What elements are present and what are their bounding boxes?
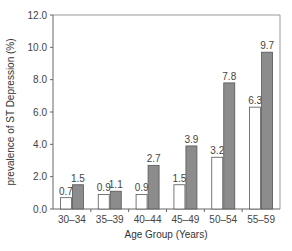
- y-axis-title: prevalence of ST Depression (%): [5, 38, 16, 185]
- bar-gray: [262, 52, 273, 209]
- bar-value-label: 1.5: [172, 173, 186, 184]
- bar-value-label: 7.8: [222, 71, 236, 82]
- y-tick-label: 2.0: [33, 171, 47, 182]
- bar-value-label: 3.9: [184, 134, 198, 145]
- bar-gray: [148, 165, 159, 209]
- x-axis: 30–3435–3940–4445–4950–5455–59: [58, 209, 275, 225]
- y-tick-label: 4.0: [33, 139, 47, 150]
- x-tick-label: 30–34: [58, 214, 86, 225]
- x-tick-label: 35–39: [96, 214, 124, 225]
- x-tick-label: 40–44: [134, 214, 162, 225]
- bar-value-label: 0.7: [59, 186, 73, 197]
- bar-gray: [72, 185, 83, 209]
- bar-value-label: 1.5: [71, 173, 85, 184]
- bar-white: [98, 194, 109, 209]
- bar-value-label: 6.3: [248, 95, 262, 106]
- y-tick-label: 6.0: [33, 107, 47, 118]
- bar-value-label: 2.7: [147, 153, 161, 164]
- y-tick-label: 8.0: [33, 74, 47, 85]
- x-tick-label: 45–49: [172, 214, 200, 225]
- bar-white: [136, 194, 147, 209]
- bar-white: [212, 157, 223, 209]
- y-axis: 0.02.04.06.08.010.012.0: [28, 10, 53, 215]
- bar-value-label: 0.9: [135, 182, 149, 193]
- bar-gray: [110, 191, 121, 209]
- x-axis-title: Age Group (Years): [124, 229, 207, 240]
- bar-white: [60, 198, 71, 209]
- bar-gray: [186, 146, 197, 209]
- plot-frame: [53, 15, 280, 209]
- x-tick-label: 50–54: [209, 214, 237, 225]
- bar-white: [250, 107, 261, 209]
- y-tick-label: 12.0: [28, 10, 48, 21]
- bar-gray: [224, 83, 235, 209]
- bar-white: [174, 185, 185, 209]
- bar-value-label: 3.2: [210, 145, 224, 156]
- y-tick-label: 10.0: [28, 42, 48, 53]
- y-tick-label: 0.0: [33, 204, 47, 215]
- bar-chart: 0.02.04.06.08.010.012.0 30–3435–3940–444…: [0, 0, 292, 251]
- bar-value-label: 9.7: [260, 40, 274, 51]
- bar-value-label: 1.1: [109, 179, 123, 190]
- x-tick-label: 55–59: [247, 214, 275, 225]
- bars: 0.71.50.91.10.92.71.53.93.27.86.39.7: [59, 40, 275, 209]
